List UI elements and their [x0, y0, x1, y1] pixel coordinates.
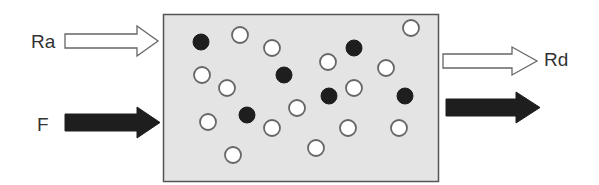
hollow-particle [320, 54, 336, 70]
hollow-particle [378, 60, 394, 76]
filled-particle [239, 107, 255, 123]
hollow-particle [264, 40, 280, 56]
ra-label: Ra [31, 32, 55, 51]
hollow-particle [232, 27, 248, 43]
hollow-particle [219, 80, 235, 96]
hollow-particle [289, 100, 305, 116]
hollow-particle [225, 147, 241, 163]
filled-particle [193, 34, 209, 50]
hollow-particle [391, 120, 407, 136]
f-label: F [37, 115, 49, 134]
f-inflow-arrow [65, 107, 160, 138]
hollow-particle [346, 80, 362, 96]
rd-label: Rd [544, 50, 568, 69]
filled-particle [321, 88, 337, 104]
ra-inflow-arrow [65, 26, 158, 56]
filled-particle [276, 67, 292, 83]
hollow-particle [308, 140, 324, 156]
rd-outflow-arrow [443, 47, 537, 75]
hollow-particle [264, 120, 280, 136]
hollow-particle [194, 67, 210, 83]
filled-particle [346, 40, 362, 56]
hollow-particle [403, 20, 419, 36]
filled-particle [397, 88, 413, 104]
diagram-canvas [0, 0, 599, 185]
filled-outflow-arrow [446, 92, 540, 123]
hollow-particle [340, 120, 356, 136]
hollow-particle [200, 114, 216, 130]
